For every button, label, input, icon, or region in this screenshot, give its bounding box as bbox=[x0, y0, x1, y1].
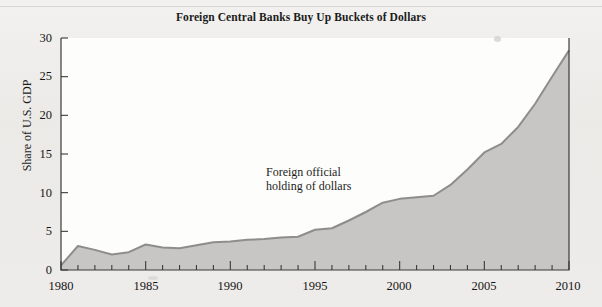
plot-area bbox=[0, 0, 602, 307]
series-annotation: Foreign official holding of dollars bbox=[266, 165, 351, 193]
chart-figure: Foreign Central Banks Buy Up Buckets of … bbox=[0, 0, 602, 307]
